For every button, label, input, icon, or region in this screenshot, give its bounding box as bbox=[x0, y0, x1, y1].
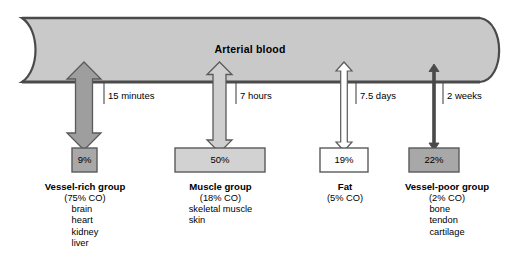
group-title-vessel-rich: Vessel-rich group bbox=[20, 181, 150, 193]
diagram-canvas: Arterial blood 15 minutes 7 hours 7.5 da… bbox=[0, 0, 528, 264]
list-item: liver bbox=[72, 238, 99, 249]
percent-label-fat: 19% bbox=[320, 154, 368, 165]
list-item: skin bbox=[189, 215, 253, 226]
group-co-vessel-poor: (2% CO) bbox=[379, 193, 515, 205]
list-item: bone bbox=[429, 204, 464, 215]
group-co-fat: (5% CO) bbox=[306, 193, 384, 205]
list-item: tendon bbox=[429, 215, 464, 226]
group-fat: Fat (5% CO) bbox=[306, 181, 384, 204]
percent-label-muscle: 50% bbox=[175, 154, 265, 165]
group-members-vessel-rich: brain heart kidney liver bbox=[20, 204, 150, 249]
list-item: skeletal muscle bbox=[189, 204, 253, 215]
group-title-muscle: Muscle group bbox=[163, 181, 278, 193]
time-label-fat: 7.5 days bbox=[360, 90, 396, 101]
time-label-vessel-poor: 2 weeks bbox=[447, 90, 482, 101]
group-vessel-rich: Vessel-rich group (75% CO) brain heart k… bbox=[20, 181, 150, 249]
vessel-title: Arterial blood bbox=[0, 43, 500, 55]
group-members-muscle: skeletal muscle skin bbox=[163, 204, 278, 227]
group-members-vessel-poor: bone tendon cartilage bbox=[379, 204, 515, 238]
group-vessel-poor: Vessel-poor group (2% CO) bone tendon ca… bbox=[379, 181, 515, 238]
percent-label-vessel-poor: 22% bbox=[409, 154, 459, 165]
group-co-vessel-rich: (75% CO) bbox=[20, 193, 150, 205]
flow-arrow-vessel-rich bbox=[67, 62, 101, 150]
group-title-vessel-poor: Vessel-poor group bbox=[379, 181, 515, 193]
time-label-muscle: 7 hours bbox=[240, 90, 272, 101]
group-co-muscle: (18% CO) bbox=[163, 193, 278, 205]
group-title-fat: Fat bbox=[306, 181, 384, 193]
percent-label-vessel-rich: 9% bbox=[72, 154, 97, 165]
group-muscle: Muscle group (18% CO) skeletal muscle sk… bbox=[163, 181, 278, 227]
list-item: kidney bbox=[72, 227, 99, 238]
time-label-vessel-rich: 15 minutes bbox=[108, 90, 154, 101]
list-item: brain bbox=[72, 204, 99, 215]
list-item: cartilage bbox=[429, 227, 464, 238]
list-item: heart bbox=[72, 215, 99, 226]
